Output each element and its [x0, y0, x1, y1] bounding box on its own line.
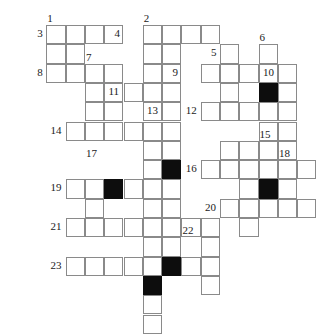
- grid-cell[interactable]: [46, 44, 65, 63]
- grid-cell[interactable]: [239, 199, 258, 218]
- grid-cell[interactable]: [220, 160, 239, 179]
- grid-cell[interactable]: [143, 141, 162, 160]
- grid-cell[interactable]: [220, 83, 239, 102]
- clue-number: 12: [186, 105, 197, 116]
- grid-cell[interactable]: [66, 64, 85, 83]
- grid-cell[interactable]: [143, 179, 162, 198]
- grid-cell[interactable]: [162, 25, 181, 44]
- grid-cell[interactable]: [162, 237, 181, 256]
- grid-cell[interactable]: [143, 122, 162, 141]
- grid-cell[interactable]: [143, 25, 162, 44]
- grid-cell[interactable]: [278, 199, 297, 218]
- grid-cell[interactable]: [66, 257, 85, 276]
- grid-cell[interactable]: [162, 102, 181, 121]
- grid-cell[interactable]: [162, 44, 181, 63]
- clue-number: 6: [260, 32, 266, 43]
- grid-cell[interactable]: [162, 122, 181, 141]
- grid-cell[interactable]: [278, 102, 297, 121]
- grid-cell[interactable]: [124, 83, 143, 102]
- grid-cell[interactable]: [143, 315, 162, 334]
- grid-cell[interactable]: [278, 122, 297, 141]
- grid-cell[interactable]: [143, 218, 162, 237]
- grid-cell[interactable]: [201, 25, 220, 44]
- grid-cell[interactable]: [66, 218, 85, 237]
- clue-number: 3: [37, 28, 43, 39]
- grid-cell[interactable]: [143, 237, 162, 256]
- grid-cell[interactable]: [104, 257, 123, 276]
- grid-cell-block: [104, 179, 123, 198]
- grid-cell[interactable]: [201, 64, 220, 83]
- grid-cell[interactable]: [181, 257, 200, 276]
- grid-cell[interactable]: [259, 44, 278, 63]
- grid-cell[interactable]: [46, 25, 65, 44]
- grid-cell[interactable]: [143, 160, 162, 179]
- grid-cell[interactable]: [201, 257, 220, 276]
- grid-cell[interactable]: [85, 83, 104, 102]
- grid-cell[interactable]: [162, 141, 181, 160]
- grid-cell[interactable]: [239, 141, 258, 160]
- grid-cell[interactable]: [220, 141, 239, 160]
- grid-cell[interactable]: [278, 179, 297, 198]
- grid-cell[interactable]: [239, 160, 258, 179]
- grid-cell[interactable]: [104, 64, 123, 83]
- grid-cell[interactable]: [143, 257, 162, 276]
- grid-cell[interactable]: [259, 102, 278, 121]
- grid-cell[interactable]: [143, 295, 162, 314]
- grid-cell[interactable]: [239, 179, 258, 198]
- grid-cell[interactable]: [143, 44, 162, 63]
- grid-cell[interactable]: [124, 122, 143, 141]
- grid-cell[interactable]: [162, 199, 181, 218]
- grid-cell[interactable]: [297, 199, 316, 218]
- grid-cell[interactable]: [104, 218, 123, 237]
- grid-cell[interactable]: [181, 25, 200, 44]
- grid-cell[interactable]: [201, 218, 220, 237]
- grid-cell[interactable]: [85, 25, 104, 44]
- grid-cell[interactable]: [201, 276, 220, 295]
- grid-cell[interactable]: [278, 83, 297, 102]
- grid-cell[interactable]: [278, 64, 297, 83]
- grid-cell[interactable]: [124, 179, 143, 198]
- grid-cell[interactable]: [85, 122, 104, 141]
- clue-number: 22: [182, 225, 193, 236]
- grid-cell[interactable]: [220, 64, 239, 83]
- grid-cell[interactable]: [85, 64, 104, 83]
- grid-cell[interactable]: [259, 141, 278, 160]
- grid-cell[interactable]: [220, 199, 239, 218]
- grid-cell[interactable]: [239, 102, 258, 121]
- grid-cell[interactable]: [85, 102, 104, 121]
- grid-cell[interactable]: [201, 237, 220, 256]
- grid-cell[interactable]: [162, 83, 181, 102]
- grid-cell[interactable]: [46, 64, 65, 83]
- grid-cell[interactable]: [85, 179, 104, 198]
- grid-cell[interactable]: [104, 122, 123, 141]
- clue-number: 19: [51, 182, 62, 193]
- clue-number: 5: [211, 47, 217, 58]
- grid-cell[interactable]: [66, 122, 85, 141]
- grid-cell[interactable]: [239, 64, 258, 83]
- grid-cell[interactable]: [143, 64, 162, 83]
- grid-cell[interactable]: [220, 102, 239, 121]
- grid-cell[interactable]: [66, 44, 85, 63]
- grid-cell[interactable]: [278, 160, 297, 179]
- grid-cell[interactable]: [66, 25, 85, 44]
- grid-cell[interactable]: [259, 199, 278, 218]
- clue-number: 8: [37, 67, 43, 78]
- grid-cell[interactable]: [124, 218, 143, 237]
- grid-cell[interactable]: [85, 218, 104, 237]
- grid-cell[interactable]: [259, 160, 278, 179]
- grid-cell[interactable]: [201, 102, 220, 121]
- clue-number: 15: [260, 129, 271, 140]
- grid-cell[interactable]: [124, 257, 143, 276]
- grid-cell[interactable]: [201, 160, 220, 179]
- grid-cell[interactable]: [220, 44, 239, 63]
- grid-cell[interactable]: [239, 218, 258, 237]
- grid-cell[interactable]: [162, 218, 181, 237]
- grid-cell[interactable]: [104, 102, 123, 121]
- grid-cell[interactable]: [143, 199, 162, 218]
- grid-cell[interactable]: [162, 179, 181, 198]
- grid-cell[interactable]: [66, 179, 85, 198]
- grid-cell[interactable]: [297, 160, 316, 179]
- grid-cell[interactable]: [143, 83, 162, 102]
- grid-cell[interactable]: [85, 257, 104, 276]
- grid-cell[interactable]: [85, 199, 104, 218]
